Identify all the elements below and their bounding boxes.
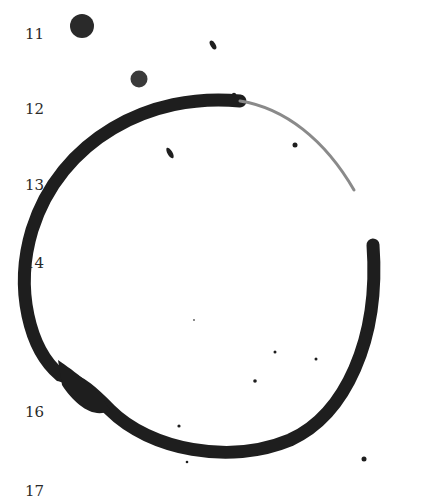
ink-drop-large [70,14,94,38]
ink-stain-ring-icon [0,0,431,504]
ink-drop-medium [131,71,148,88]
